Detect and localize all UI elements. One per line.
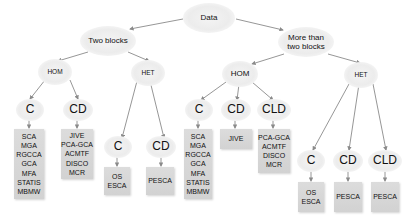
methods-box-two-het-cd: PESCA xyxy=(146,167,174,195)
node-more-het-cld: CLD xyxy=(368,150,402,172)
node-two-het-cd: CD xyxy=(146,136,176,158)
method-item: MGA xyxy=(21,141,37,150)
method-item: ESCA xyxy=(301,197,320,206)
method-item: ACMTF xyxy=(65,149,89,158)
two-hom-c-label: C xyxy=(26,103,35,117)
methods-box-more-het-cld: PESCA xyxy=(371,182,399,212)
more-hom-c-label: C xyxy=(195,103,204,117)
node-more-hom: HOM xyxy=(222,61,258,87)
node-two-hom: HOM xyxy=(38,59,72,85)
methods-box-two-hom-cd: JIVE PCA-GCA ACMTF DISCO MCR xyxy=(61,129,93,179)
more-het-cd-label: CD xyxy=(339,154,356,168)
node-more-hom-cld: CLD xyxy=(257,99,291,121)
method-item: DISCO xyxy=(66,159,88,168)
method-item: RGCCA xyxy=(185,150,210,159)
method-item: PCA-GCA xyxy=(258,133,290,142)
more-het-cld-label: CLD xyxy=(373,154,397,168)
node-two-blocks: Two blocks xyxy=(80,26,136,56)
two-het-cd-label: CD xyxy=(152,140,169,154)
method-item: JIVE xyxy=(70,131,85,140)
method-item: OS xyxy=(306,188,316,197)
more-het-c-label: C xyxy=(307,154,316,168)
method-item: PESCA xyxy=(336,192,360,201)
method-item: PESCA xyxy=(373,192,397,201)
method-item: SCA xyxy=(191,132,205,141)
methods-box-more-het-c: OS ESCA xyxy=(298,182,324,212)
method-item: JIVE xyxy=(229,134,244,143)
method-item: GCA xyxy=(21,159,36,168)
node-two-hom-cd: CD xyxy=(63,99,93,121)
two-het-c-label: C xyxy=(114,140,123,154)
two-hom-cd-label: CD xyxy=(69,103,86,117)
method-item: ESCA xyxy=(107,181,126,190)
method-item: MCR xyxy=(266,160,282,169)
method-item: MGA xyxy=(190,141,206,150)
method-item: OS xyxy=(112,172,122,181)
more-hom-label: HOM xyxy=(231,69,250,78)
two-het-label: HET xyxy=(142,69,155,76)
two-blocks-label: Two blocks xyxy=(88,36,128,45)
method-item: MCR xyxy=(69,168,85,177)
node-two-het-c: C xyxy=(104,136,132,158)
more-hom-cd-label: CD xyxy=(227,103,244,117)
method-item: DISCO xyxy=(263,151,285,160)
method-item: PESCA xyxy=(148,176,172,185)
method-item: STATIS xyxy=(186,178,209,187)
method-item: PCA-GCA xyxy=(61,140,93,149)
root-node-data: Data xyxy=(183,3,235,33)
methods-box-two-het-c: OS ESCA xyxy=(104,167,130,195)
node-more-het-c: C xyxy=(297,150,325,172)
node-more-het-cd: CD xyxy=(333,150,363,172)
node-more-hom-cd: CD xyxy=(221,99,251,121)
method-item: GCA xyxy=(190,159,205,168)
node-more-het: HET xyxy=(344,62,378,88)
method-item: STATIS xyxy=(17,178,40,187)
method-item: MFA xyxy=(22,169,36,178)
method-item: MBMW xyxy=(187,187,210,196)
method-item: MFA xyxy=(191,169,205,178)
more-het-label: HET xyxy=(355,71,368,78)
method-item: MBMW xyxy=(18,187,41,196)
node-two-het: HET xyxy=(131,60,165,86)
more-hom-cld-label: CLD xyxy=(262,103,286,117)
methods-box-more-hom-cld: PCA-GCA ACMTF DISCO MCR xyxy=(258,129,290,173)
two-hom-label: HOM xyxy=(47,68,62,75)
node-two-hom-c: C xyxy=(16,99,44,121)
more-blocks-label-line1: More than xyxy=(288,33,324,42)
node-more-than-two-blocks: More than two blocks xyxy=(278,27,334,57)
method-item: SCA xyxy=(22,132,36,141)
methods-box-more-het-cd: PESCA xyxy=(334,182,362,212)
root-label: Data xyxy=(201,13,218,22)
methods-box-two-hom-c: SCA MGA RGCCA GCA MFA STATIS MBMW xyxy=(14,129,44,199)
method-item: RGCCA xyxy=(16,150,41,159)
more-blocks-label-line2: two blocks xyxy=(287,42,324,51)
methods-box-more-hom-c: SCA MGA RGCCA GCA MFA STATIS MBMW xyxy=(184,129,212,199)
node-more-hom-c: C xyxy=(185,99,213,121)
methods-box-more-hom-cd: JIVE xyxy=(220,129,252,149)
method-item: ACMTF xyxy=(262,142,286,151)
